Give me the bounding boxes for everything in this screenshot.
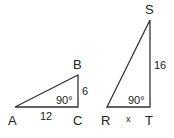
side-ac-label: 12 [40, 111, 52, 122]
vertex-t-label: T [145, 114, 153, 127]
side-st-label: 16 [154, 60, 166, 71]
vertex-a-label: A [8, 114, 17, 127]
side-rt-label: x [126, 115, 131, 124]
similar-triangles-diagram: A C B 12 6 90° R T S x 16 90° [0, 0, 174, 138]
angle-t-label: 90° [128, 95, 145, 106]
side-bc-label: 6 [82, 86, 88, 97]
vertex-b-label: B [73, 58, 82, 71]
vertex-r-label: R [101, 114, 110, 127]
angle-c-label: 90° [56, 95, 73, 106]
vertex-c-label: C [73, 114, 82, 127]
vertex-s-label: S [145, 3, 154, 16]
